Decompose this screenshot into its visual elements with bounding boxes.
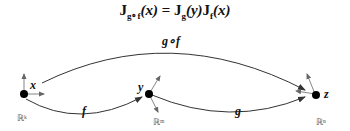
point-z (312, 91, 320, 99)
map-label-gf: g∘f (162, 34, 180, 49)
space-label-codomain: ℝⁿ (316, 117, 326, 127)
point-label-y: y (138, 80, 143, 95)
point-y (145, 90, 153, 98)
point-label-z: z (324, 87, 329, 102)
space-label-domain: ℝᵏ (17, 113, 27, 123)
map-arrow-gf (42, 53, 305, 90)
map-label-g: g (235, 104, 241, 119)
point-x (20, 90, 28, 98)
map-label-f: f (82, 104, 86, 119)
chain-rule-diagram (0, 0, 350, 131)
map-arrow-g (152, 95, 305, 112)
space-label-middle: ℝᵐ (153, 117, 164, 127)
point-label-x: x (30, 78, 36, 93)
